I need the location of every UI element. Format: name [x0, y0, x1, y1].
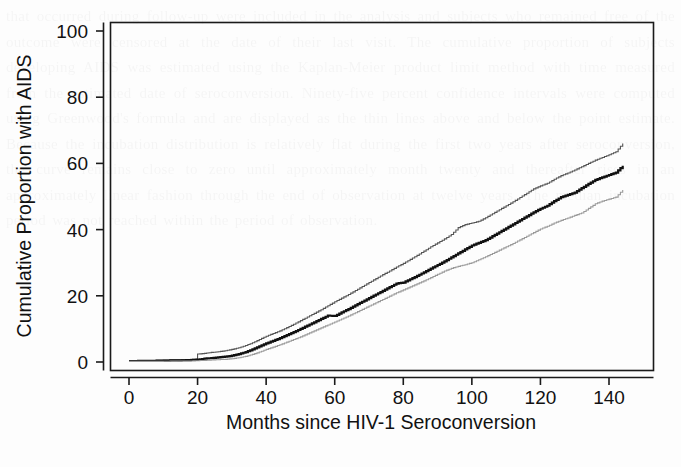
y-axis-tick-labels: 020406080100 [56, 21, 88, 373]
x-tick-label: 60 [324, 387, 345, 408]
x-tick-label: 100 [456, 387, 488, 408]
x-tick-label: 0 [124, 387, 135, 408]
series-lower-ci [129, 190, 623, 361]
y-tick-label: 100 [56, 21, 88, 42]
x-tick-label: 40 [256, 387, 277, 408]
series-estimate [129, 166, 623, 361]
x-tick-label: 20 [187, 387, 208, 408]
x-axis-ticks [129, 378, 609, 386]
y-tick-label: 60 [67, 153, 88, 174]
x-tick-label: 80 [393, 387, 414, 408]
plot-frame-box [111, 23, 654, 371]
x-axis-title: Months since HIV-1 Seroconversion [226, 411, 536, 433]
series-upper-ci [129, 144, 623, 361]
y-tick-label: 40 [67, 220, 88, 241]
cumulative-incidence-chart: 020406080100 020406080100120140 Months s… [0, 0, 681, 467]
y-tick-label: 20 [67, 286, 88, 307]
x-tick-label: 120 [525, 387, 557, 408]
y-tick-label: 80 [67, 87, 88, 108]
chart-series-group [129, 144, 623, 362]
x-tick-label: 140 [593, 387, 625, 408]
x-axis-tick-labels: 020406080100120140 [124, 387, 625, 408]
y-axis-title: Cumulative Proportion with AIDS [13, 55, 35, 338]
y-axis-ticks [96, 31, 104, 362]
figure-container: that occurred during follow-up were incl… [0, 0, 681, 467]
y-tick-label: 0 [77, 352, 88, 373]
